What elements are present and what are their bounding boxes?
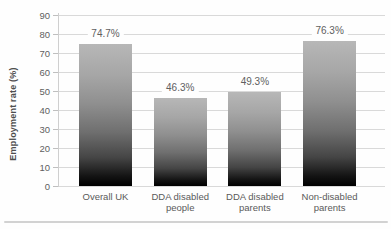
x-category-label: Non-disabled parents — [287, 191, 373, 213]
x-category-label: DDA disabled people — [137, 191, 223, 213]
bar-value-label: 46.3% — [162, 82, 198, 94]
y-tick-label-10: 10 — [20, 162, 50, 173]
y-tick-label-0: 0 — [20, 181, 50, 192]
y-tick-label-30: 30 — [20, 124, 50, 135]
x-category-label: Overall UK — [63, 191, 149, 202]
y-tick-label-70: 70 — [20, 48, 50, 59]
y-tick-label-40: 40 — [20, 105, 50, 116]
y-tick-label-80: 80 — [20, 29, 50, 40]
y-tick-label-90: 90 — [20, 10, 50, 21]
bar-non-disabled-parents — [303, 41, 356, 186]
bottom-divider-line — [4, 221, 388, 223]
bar-value-label: 74.7% — [87, 28, 123, 40]
gridline-90 — [58, 15, 385, 16]
y-axis-title: Employment rate (%) — [8, 67, 18, 160]
y-tick-label-50: 50 — [20, 86, 50, 97]
y-tick-label-20: 20 — [20, 143, 50, 154]
y-axis-line — [58, 13, 59, 187]
y-tick-label-60: 60 — [20, 67, 50, 78]
gridline-0 — [58, 186, 385, 187]
bar-value-label: 76.3% — [311, 25, 347, 37]
bar-dda-disabled-people — [154, 98, 207, 186]
x-category-label: DDA disabled parents — [212, 191, 298, 213]
bar-value-label: 49.3% — [237, 76, 273, 88]
bar-dda-disabled-parents — [228, 92, 281, 186]
employment-rate-bar-chart: Employment rate (%) 01020304050607080907… — [0, 0, 391, 229]
bar-overall-uk — [79, 44, 132, 186]
